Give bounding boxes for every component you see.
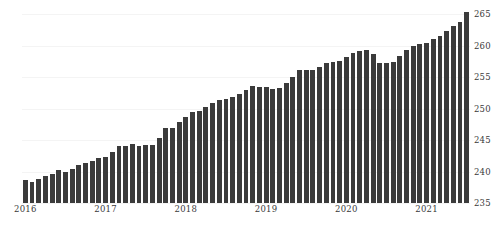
bar bbox=[297, 70, 302, 203]
bar bbox=[444, 31, 449, 203]
bar bbox=[417, 44, 422, 203]
bar bbox=[411, 46, 416, 203]
bar bbox=[83, 163, 88, 203]
gridline bbox=[22, 203, 470, 204]
x-axis-tick-labels: 201620172018201920202021 bbox=[0, 205, 501, 225]
bar bbox=[284, 83, 289, 203]
bar bbox=[451, 26, 456, 203]
bar bbox=[36, 179, 41, 203]
bar bbox=[270, 89, 275, 203]
bar bbox=[424, 43, 429, 203]
bar bbox=[56, 170, 61, 203]
bar bbox=[244, 90, 249, 203]
bar bbox=[183, 117, 188, 203]
bar bbox=[63, 172, 68, 203]
bar bbox=[210, 103, 215, 203]
bar bbox=[190, 112, 195, 203]
plot-area bbox=[22, 8, 470, 203]
bar bbox=[150, 145, 155, 204]
bar bbox=[404, 50, 409, 203]
bar bbox=[310, 70, 315, 203]
bar bbox=[103, 157, 108, 203]
bar bbox=[23, 180, 28, 203]
bar bbox=[290, 77, 295, 203]
bar bbox=[431, 39, 436, 203]
bar bbox=[324, 63, 329, 203]
bar bbox=[76, 165, 81, 203]
bar bbox=[230, 97, 235, 203]
bar bbox=[203, 107, 208, 203]
bar bbox=[123, 146, 128, 203]
y-axis-tick-label: 260 bbox=[474, 42, 491, 50]
bar bbox=[177, 122, 182, 203]
bar bbox=[337, 61, 342, 203]
bar bbox=[371, 54, 376, 203]
bar bbox=[237, 94, 242, 203]
bar bbox=[264, 87, 269, 203]
bar bbox=[277, 88, 282, 203]
x-axis-tick-label: 2020 bbox=[335, 205, 357, 214]
bar bbox=[43, 176, 48, 203]
bar bbox=[70, 169, 75, 203]
bar bbox=[110, 152, 115, 203]
bar bbox=[224, 99, 229, 203]
bar bbox=[317, 67, 322, 203]
bar bbox=[384, 63, 389, 203]
y-axis-tick-label: 265 bbox=[474, 10, 491, 18]
bar bbox=[163, 128, 168, 203]
bar bbox=[257, 87, 262, 203]
bar bbox=[143, 145, 148, 203]
bar-chart: 235240245250255260265 201620172018201920… bbox=[0, 0, 501, 232]
bar bbox=[357, 51, 362, 203]
x-axis-tick-label: 2018 bbox=[175, 205, 197, 214]
bar bbox=[197, 111, 202, 203]
bar bbox=[137, 146, 142, 203]
bar bbox=[304, 70, 309, 203]
x-axis-tick-label: 2021 bbox=[415, 205, 437, 214]
y-axis-tick-label: 245 bbox=[474, 136, 491, 144]
y-axis-tick-label: 240 bbox=[474, 168, 491, 176]
bar bbox=[217, 100, 222, 203]
bar bbox=[464, 12, 469, 203]
bar bbox=[351, 53, 356, 203]
y-axis-tick-label: 255 bbox=[474, 73, 491, 81]
bar bbox=[391, 62, 396, 203]
bar bbox=[117, 146, 122, 203]
bar bbox=[458, 22, 463, 203]
bar bbox=[364, 50, 369, 203]
bar bbox=[96, 158, 101, 203]
y-axis-tick-label: 250 bbox=[474, 105, 491, 113]
bar bbox=[377, 63, 382, 203]
bar bbox=[250, 86, 255, 203]
bar bbox=[438, 36, 443, 203]
bar bbox=[30, 182, 35, 203]
x-axis-tick-label: 2019 bbox=[255, 205, 277, 214]
bar bbox=[344, 57, 349, 203]
x-axis-tick-label: 2017 bbox=[94, 205, 116, 214]
y-axis-tick-labels: 235240245250255260265 bbox=[472, 0, 501, 232]
bar bbox=[331, 62, 336, 203]
bar bbox=[397, 56, 402, 203]
bar bbox=[90, 161, 95, 203]
bar bbox=[170, 128, 175, 203]
bar bbox=[130, 144, 135, 203]
x-axis-tick-label: 2016 bbox=[14, 205, 36, 214]
bar-series bbox=[22, 8, 470, 203]
bar bbox=[50, 174, 55, 203]
bar bbox=[157, 138, 162, 203]
